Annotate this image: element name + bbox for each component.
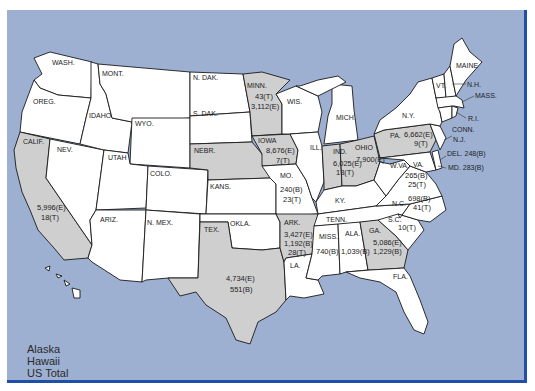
value-sc-1: 10(T) — [398, 223, 416, 232]
value-ga-1: 5,086(E) — [373, 238, 402, 247]
label-conn: CONN. — [452, 126, 475, 133]
label-ky: KY. — [335, 197, 345, 204]
label-fla: FLA. — [393, 273, 408, 280]
label-mo: MO. — [280, 172, 293, 179]
label-ri: R.I. — [468, 115, 479, 122]
legend-us-total: US Total — [27, 367, 68, 379]
label-oreg: OREG. — [33, 98, 56, 105]
label-nc: N.C. — [392, 200, 406, 207]
label-utah: UTAH — [108, 154, 127, 161]
label-tenn: TENN. — [326, 216, 347, 223]
value-nc-1: 698(B) — [408, 194, 431, 203]
value-pa-1: 6,662(E) — [404, 130, 433, 139]
label-colo: COLO. — [150, 170, 172, 177]
leader-mass — [462, 96, 474, 102]
label-ariz: ARIZ. — [100, 216, 118, 223]
label-okla: OKLA. — [230, 220, 251, 227]
label-ill: ILL. — [310, 144, 322, 151]
legend-hawaii: Hawaii — [27, 355, 60, 367]
label-md: MD. 283(B) — [448, 164, 484, 172]
label-ind: IND. — [333, 148, 347, 155]
label-ark: ARK. — [284, 219, 300, 226]
value-calif-2: 18(T) — [41, 213, 59, 222]
value-mo-1: 240(B) — [280, 185, 303, 194]
label-nev: NEV. — [57, 146, 73, 153]
label-miss: MISS. — [319, 233, 338, 240]
label-la: LA. — [290, 262, 301, 269]
label-mont: MONT. — [102, 70, 124, 77]
label-pa: PA. — [390, 132, 401, 139]
value-ohio-1: 7,900(E) — [356, 155, 385, 164]
leader-ri — [456, 112, 466, 118]
label-ndak: N. DAK. — [193, 74, 218, 81]
value-iowa-2: 7(T) — [276, 156, 290, 165]
value-ark-1: 3,427(E) — [284, 230, 313, 239]
value-va-2: 25(T) — [408, 180, 426, 189]
leader-del — [440, 156, 446, 160]
state-ri[interactable] — [452, 106, 458, 118]
value-tex-1: 4,734(E) — [226, 274, 255, 283]
value-ga-2: 1,229(B) — [373, 247, 402, 256]
label-sdak: S. DAK. — [193, 110, 218, 117]
label-kans: KANS. — [210, 183, 231, 190]
label-mich: MICH. — [336, 114, 356, 121]
value-mo-2: 23(T) — [283, 195, 301, 204]
label-ga: GA. — [369, 227, 381, 234]
label-nebr: NEBR. — [194, 147, 215, 154]
label-vt: VT. — [436, 82, 446, 89]
value-pa-2: 9(T) — [414, 139, 428, 148]
label-iowa: IOWA — [258, 137, 277, 144]
value-iowa-1: 8,676(E) — [266, 146, 295, 155]
label-ny: N.Y. — [402, 112, 415, 119]
hawaii-islands — [45, 266, 80, 298]
label-wash: WASH. — [52, 59, 75, 66]
label-calif: CALIF. — [23, 138, 44, 145]
label-tex: TEX. — [204, 226, 220, 233]
label-ohio: OHIO — [355, 144, 373, 151]
label-nj: N.J. — [453, 136, 466, 143]
us-map: WASH. OREG. CALIF. 5,996(E) 18(T) NEV. I… — [0, 0, 535, 391]
label-ala: ALA. — [345, 230, 360, 237]
label-nh: N.H. — [467, 81, 481, 88]
state-fla[interactable] — [346, 268, 428, 334]
label-maine: MAINE — [456, 62, 479, 69]
label-wis: WIS. — [287, 98, 302, 105]
label-wva: W.VA. — [390, 162, 409, 169]
label-nmex: N. MEX. — [147, 219, 173, 226]
value-minn-1: 43(T) — [255, 92, 273, 101]
value-ark-2: 1,192(B) — [284, 239, 313, 248]
value-ark-3: 28(T) — [288, 248, 306, 257]
value-va-1: 265(B) — [405, 171, 428, 180]
value-ala-1: 1,039(B) — [341, 247, 370, 256]
value-tex-2: 551(B) — [230, 285, 253, 294]
value-nc-2: 41(T) — [413, 203, 431, 212]
label-sc: S.C. — [388, 216, 402, 223]
label-va: VA. — [413, 161, 424, 168]
value-ind-2: 13(T) — [336, 168, 354, 177]
label-minn: MINN. — [247, 82, 267, 89]
label-del: DEL. 248(B) — [447, 150, 486, 158]
label-mass: MASS. — [475, 92, 497, 99]
label-wyo: WYO. — [135, 120, 154, 127]
label-idaho: IDAHO — [89, 112, 112, 119]
value-calif-1: 5,996(E) — [37, 203, 66, 212]
value-minn-2: 3,112(E) — [251, 102, 280, 111]
value-miss-1: 740(B) — [316, 247, 339, 256]
legend-alaska: Alaska — [27, 343, 60, 355]
